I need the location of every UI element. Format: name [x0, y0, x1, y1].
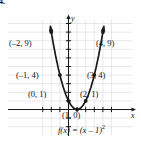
- point-label: (2, 1): [80, 90, 98, 99]
- point-label: (3, 4): [87, 71, 105, 80]
- parabola-figure: 4. y x (–2, 9)(4, 9)(–1, 4)(3, 4)(0, 1)(…: [0, 0, 141, 148]
- point-label: (–2, 9): [9, 39, 32, 48]
- point-label: (4, 9): [96, 39, 114, 48]
- point-label: (–1, 4): [16, 71, 39, 80]
- function-equation-text: f(x) = (x – 1): [58, 125, 102, 135]
- point-label: (0, 1): [28, 90, 46, 99]
- function-exponent: 2: [102, 124, 105, 130]
- function-equation-label: f(x) = (x – 1)2: [58, 124, 105, 135]
- point-label: (1, 0): [62, 111, 80, 120]
- y-axis-label: y: [71, 14, 75, 23]
- x-axis-label: x: [131, 111, 135, 120]
